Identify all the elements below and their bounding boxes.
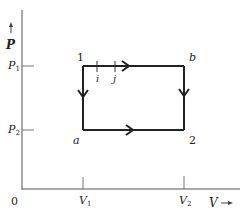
p1-label: P1 — [8, 60, 20, 73]
corner-label-b: b — [189, 52, 196, 63]
y-axis-label: P — [6, 39, 15, 51]
corner-label-a: a — [73, 135, 80, 146]
x-axis-label: V — [209, 197, 218, 209]
p2-label: P2 — [8, 124, 20, 137]
origin-label: 0 — [11, 196, 18, 207]
point-label-i: i — [96, 74, 99, 84]
v1-label: V1 — [79, 195, 91, 208]
v-arrowhead-icon — [228, 201, 233, 205]
point-label-j: j — [113, 74, 116, 84]
pv-diagram: P V 0 P1 P2 V1 V2 1 b a 2 i j — [0, 0, 252, 212]
diagram-canvas — [0, 0, 252, 212]
p-arrowhead-icon — [9, 22, 13, 27]
corner-label-1: 1 — [77, 52, 84, 63]
v2-label: V2 — [179, 195, 191, 208]
corner-label-2: 2 — [189, 135, 196, 146]
